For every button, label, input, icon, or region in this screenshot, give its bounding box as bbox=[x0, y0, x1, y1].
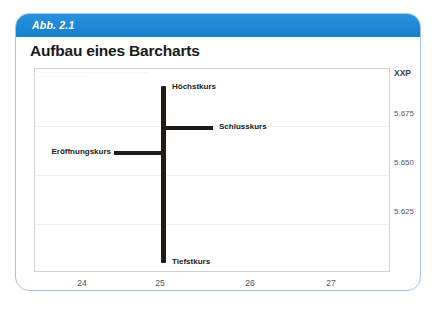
y-axis-unit-label: XXP bbox=[394, 68, 411, 78]
annotation-label-low: Tiefstkurs bbox=[172, 257, 210, 266]
figure-number-badge: Abb. 2.1 bbox=[32, 19, 74, 31]
card-header-bar: Abb. 2.1 bbox=[16, 14, 420, 37]
x-axis-tick-25: 25 bbox=[145, 278, 175, 288]
gridline-5625 bbox=[35, 224, 389, 225]
gridline-5650 bbox=[35, 175, 389, 176]
source-meta-text: · · · · · · · · · · · · · · · · · · · · … bbox=[38, 72, 288, 80]
source-meta-line-2: · · · · · · · · · · · · · · · · · · · · … bbox=[38, 76, 288, 80]
ohlc-close-tick bbox=[166, 126, 213, 130]
annotation-label-high: Höchstkurs bbox=[172, 82, 216, 91]
y-axis-tick-5650: 5.650 bbox=[394, 158, 414, 167]
y-axis-tick-5675: 5.675 bbox=[394, 109, 414, 118]
chart-plot-area: · · · · · · · · · · · · · · · · · · · · … bbox=[34, 68, 390, 272]
annotation-label-close: Schlusskurs bbox=[219, 122, 267, 131]
x-axis-tick-24: 24 bbox=[67, 278, 97, 288]
figure-card: Abb. 2.1 Aufbau eines Barcharts · · · · … bbox=[15, 13, 421, 291]
ohlc-open-tick bbox=[114, 151, 161, 155]
x-axis-tick-26: 26 bbox=[235, 278, 265, 288]
annotation-label-open: Eröffnungskurs bbox=[41, 147, 111, 156]
y-axis-tick-5625: 5.625 bbox=[394, 207, 414, 216]
ohlc-bar-range bbox=[161, 86, 166, 263]
page-title: Aufbau eines Barcharts bbox=[30, 42, 200, 60]
x-axis-tick-27: 27 bbox=[316, 278, 346, 288]
